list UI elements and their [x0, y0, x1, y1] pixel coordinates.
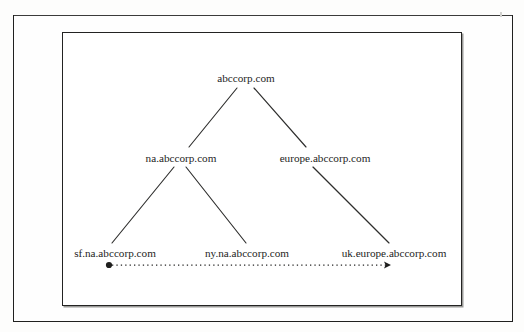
scan-speck [500, 12, 502, 17]
figure-box-border [62, 32, 462, 306]
scanned-page: abccorp.com na.abccorp.com europe.abccor… [0, 0, 524, 332]
